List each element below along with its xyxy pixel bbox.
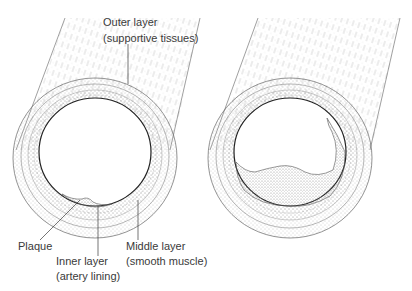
label-plaque: Plaque — [18, 240, 52, 253]
label-inner-layer: Inner layer — [56, 255, 108, 268]
label-inner-layer-sub: (artery lining) — [56, 270, 120, 283]
artery-diagram — [0, 0, 412, 291]
label-outer-layer: Outer layer — [103, 16, 157, 29]
label-middle-layer: Middle layer — [126, 240, 185, 253]
label-outer-layer-sub: (supportive tissues) — [103, 32, 198, 45]
right-artery — [208, 18, 400, 238]
left-artery — [13, 18, 200, 238]
label-middle-layer-sub: (smooth muscle) — [126, 255, 207, 268]
left-inner-layer — [39, 98, 151, 206]
